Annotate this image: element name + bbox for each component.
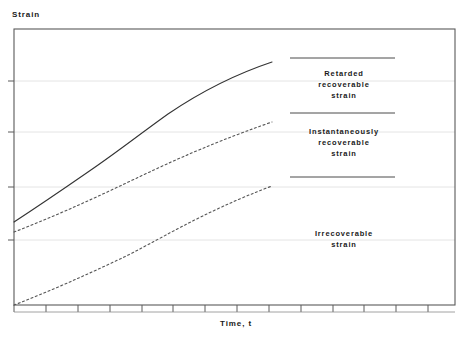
legend-instantaneous-line-1: Instantaneously — [288, 126, 400, 137]
gridlines — [14, 81, 455, 240]
series-instantaneous-recoverable-curve — [14, 122, 272, 232]
legend-label-irrecoverable-strain: Irrecoverable strain — [288, 228, 400, 250]
series-total-strain-curve — [14, 62, 272, 222]
legend-label-retarded-recoverable-strain: Retarded recoverable strain — [288, 68, 400, 101]
legend-irrecoverable-line-1: Irrecoverable — [288, 228, 400, 239]
legend-retarded-line-1: Retarded — [288, 68, 400, 79]
x-axis-ticks — [14, 305, 455, 312]
y-axis-ticks — [8, 81, 14, 240]
x-axis-title: Time, t — [0, 319, 472, 328]
legend-label-instantaneously-recoverable-strain: Instantaneously recoverable strain — [288, 126, 400, 159]
chart-canvas — [0, 0, 472, 341]
legend-irrecoverable-line-2: strain — [288, 239, 400, 250]
legend-retarded-line-3: strain — [288, 90, 400, 101]
series-irrecoverable-curve — [14, 186, 272, 305]
legend-retarded-line-2: recoverable — [288, 79, 400, 90]
legend-instantaneous-line-2: recoverable — [288, 137, 400, 148]
legend-instantaneous-line-3: strain — [288, 148, 400, 159]
creep-strain-chart: Strain — [0, 0, 472, 341]
